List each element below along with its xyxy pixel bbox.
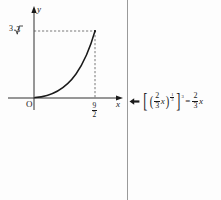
- rhs-denominator: 3: [192, 101, 198, 110]
- lhs-base-denominator: 3: [154, 101, 160, 110]
- y-axis-arrowhead: [31, 6, 36, 13]
- lhs-outer-exponent: 3: [182, 95, 184, 100]
- y-axis-label: y: [37, 4, 41, 14]
- x-axis-label: x: [116, 99, 120, 109]
- plotted-curve: [35, 31, 95, 98]
- rhs-variable: x: [199, 97, 203, 106]
- figure-canvas: y x O 3 3 9 2: [0, 0, 221, 200]
- y-tick-label-3root3: 3 3: [9, 25, 27, 35]
- graph-panel: y x O 3 3 9 2: [0, 0, 127, 200]
- lhs-inner-exponent: 1 3: [170, 93, 174, 103]
- outer-bracket-open: [: [143, 93, 147, 109]
- annotation-block: [ ( 2 3 x ) 1 3 ] 3 =: [129, 86, 221, 116]
- rhs-fraction: 2 3: [192, 92, 198, 109]
- lhs-base-fraction: 2 3: [154, 92, 160, 109]
- lhs-variable: x: [161, 97, 165, 106]
- paren-open: (: [149, 95, 153, 107]
- equals-sign: =: [185, 97, 190, 106]
- annotation-formula: [ ( 2 3 x ) 1 3 ] 3 =: [142, 92, 221, 109]
- x-tick-denominator: 2: [92, 110, 98, 119]
- paren-close: ): [165, 95, 169, 107]
- curve-endpoint-dot: [94, 30, 96, 32]
- y-tick-radicand: 3: [16, 26, 20, 34]
- outer-bracket-close: ]: [176, 93, 180, 109]
- x-tick-numerator: 9: [92, 102, 98, 110]
- rhs-numerator: 2: [192, 92, 198, 100]
- lhs-base-numerator: 2: [154, 92, 160, 100]
- vertical-divider: [127, 0, 128, 200]
- origin-label: O: [26, 99, 33, 109]
- y-axis: [31, 6, 36, 110]
- lhs-inner-exponent-denominator: 3: [170, 97, 174, 103]
- left-arrow-icon: [129, 97, 140, 106]
- y-tick-coefficient: 3: [9, 25, 13, 33]
- x-tick-label-nine-halves: 9 2: [91, 100, 98, 118]
